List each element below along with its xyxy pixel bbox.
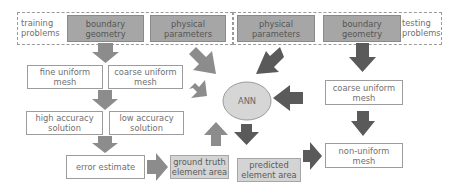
- arrow-down-icon: [349, 43, 376, 72]
- ann-label: ANN: [223, 96, 271, 106]
- arrow-down-icon: [351, 111, 375, 136]
- arrow-diagonal-icon: [189, 47, 216, 74]
- arrow-left-icon: [273, 85, 303, 111]
- arrow-right-icon: [147, 153, 168, 181]
- arrow-down-icon: [234, 124, 259, 145]
- arrow-diagonal-icon: [256, 47, 284, 74]
- arrow-diagonal-icon: [189, 80, 207, 98]
- arrow-down-icon: [92, 90, 118, 110]
- workflow-diagram: training problems testing problems bound…: [0, 0, 458, 193]
- arrow-down-icon: [92, 136, 118, 153]
- arrow-right-icon: [303, 142, 322, 170]
- arrow-up-icon: [204, 122, 228, 146]
- arrow-down-icon: [92, 43, 119, 63]
